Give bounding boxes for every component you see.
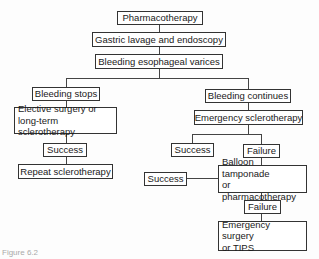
node-label: Failure: [248, 201, 277, 213]
node-failure-2: Failure: [244, 200, 281, 214]
node-label: Success: [175, 144, 211, 156]
node-label-line1: Balloon tamponade: [222, 156, 303, 179]
node-bleeding-continues: Bleeding continues: [205, 89, 291, 103]
connector: [192, 134, 193, 143]
connector: [66, 157, 67, 164]
node-success-left: Success: [43, 143, 87, 157]
node-emergency-surgery: Emergency surgery or TIPS: [218, 221, 307, 251]
node-label: Bleeding continues: [208, 90, 288, 102]
connector: [248, 124, 249, 134]
connector: [66, 78, 67, 87]
connector: [261, 134, 262, 144]
node-label: Bleeding esophageal varices: [98, 56, 219, 68]
connector: [66, 78, 249, 79]
node-label: Emergency sclerotherapy: [195, 112, 303, 124]
node-label: Gastric lavage and endoscopy: [95, 34, 223, 46]
node-success-right: Success: [171, 143, 214, 157]
node-success-balloon: Success: [144, 172, 187, 186]
node-bleeding-varices: Bleeding esophageal varices: [95, 54, 223, 69]
node-repeat-sclerotherapy: Repeat sclerotherapy: [18, 164, 113, 179]
node-label-line2: or TIPS: [222, 242, 254, 254]
node-gastric-lavage: Gastric lavage and endoscopy: [92, 32, 226, 47]
connector: [248, 78, 249, 89]
node-elective-surgery: Elective surgery or long-term sclerother…: [14, 107, 117, 134]
node-pharmacotherapy: Pharmacotherapy: [117, 11, 203, 25]
node-balloon-tamponade: Balloon tamponade or pharmacotherapy: [218, 165, 307, 193]
node-label-line1: Emergency surgery: [222, 219, 303, 242]
connector: [159, 68, 160, 78]
node-emergency-sclerotherapy: Emergency sclerotherapy: [194, 110, 303, 125]
flowchart-diagram: Pharmacotherapy Gastric lavage and endos…: [0, 0, 319, 259]
node-label-line1: Elective surgery or: [18, 103, 97, 115]
node-label: Success: [47, 144, 83, 156]
connector: [159, 47, 160, 54]
node-bleeding-stops: Bleeding stops: [32, 87, 100, 101]
connector: [159, 24, 160, 32]
connector: [248, 134, 262, 135]
node-label: Bleeding stops: [35, 88, 97, 100]
figure-caption: Figure 6.2: [2, 248, 38, 257]
connector: [186, 178, 218, 179]
connector: [192, 134, 249, 135]
connector: [248, 102, 249, 110]
node-label-line2: long-term sclerotherapy: [18, 115, 113, 138]
node-label: Repeat sclerotherapy: [20, 166, 110, 178]
node-label: Success: [148, 173, 184, 185]
node-label: Pharmacotherapy: [123, 12, 198, 24]
node-label-line2: or pharmacotherapy: [222, 179, 303, 202]
